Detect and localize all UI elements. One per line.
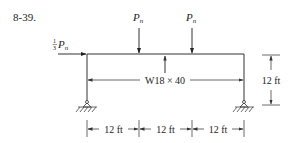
vertical-load-1: Pn [132, 11, 144, 53]
svg-text:Pn: Pn [132, 11, 144, 25]
frame-diagram: 8-39. Pn Pn 1 3 Pn [0, 0, 297, 143]
left-pin-support-icon [76, 101, 97, 113]
fraction-denominator: 3 [53, 45, 56, 51]
load-subscript: n [193, 17, 197, 25]
svg-text:Pn: Pn [57, 38, 69, 52]
span-label-2: 12 ft [156, 124, 175, 135]
span-dimensions: 12 ft 12 ft 12 ft [87, 120, 244, 137]
section-label: W18 × 40 [145, 75, 185, 86]
span-label-3: 12 ft [209, 124, 228, 135]
load-subscript: n [140, 17, 144, 25]
load-subscript: n [65, 44, 69, 52]
height-dimension: 12 ft [262, 55, 281, 105]
fraction-numerator: 1 [53, 38, 56, 44]
right-pin-support-icon [233, 101, 254, 113]
horizontal-load: 1 3 Pn [53, 38, 87, 54]
vertical-load-2: Pn [185, 11, 197, 53]
height-label: 12 ft [262, 75, 281, 86]
problem-number: 8-39. [13, 11, 36, 23]
span-label-1: 12 ft [104, 124, 123, 135]
svg-text:Pn: Pn [185, 11, 197, 25]
